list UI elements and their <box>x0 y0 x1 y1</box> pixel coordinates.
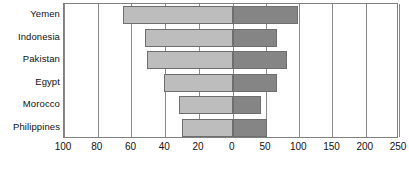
bar-row <box>64 72 397 95</box>
category-label-philippines: Philippines <box>0 116 60 139</box>
tick-left-80: 80 <box>91 141 102 152</box>
tick-right-250: 250 <box>390 141 407 152</box>
category-label-yemen: Yemen <box>0 3 60 26</box>
bar-right-pakistan <box>233 51 288 69</box>
tick-right-150: 150 <box>323 141 340 152</box>
bar-left-pakistan <box>147 51 233 69</box>
tick-left-40: 40 <box>159 141 170 152</box>
category-axis-labels: YemenIndonesiaPakistanEgyptMoroccoPhilip… <box>0 3 60 138</box>
bar-row <box>64 117 397 140</box>
tick-left-60: 60 <box>125 141 136 152</box>
bar-left-egypt <box>164 74 233 92</box>
category-label-morocco: Morocco <box>0 93 60 116</box>
bar-right-indonesia <box>233 29 278 47</box>
tick-left-20: 20 <box>192 141 203 152</box>
bar-right-philippines <box>233 119 268 137</box>
bar-left-philippines <box>182 119 233 137</box>
value-axis-tick-labels: 10080604020050100150200250 <box>0 141 409 159</box>
tick-right-100: 100 <box>290 141 307 152</box>
category-label-egypt: Egypt <box>0 71 60 94</box>
plot-area <box>63 3 398 138</box>
bar-right-morocco <box>233 96 262 114</box>
category-label-indonesia: Indonesia <box>0 26 60 49</box>
bar-row <box>64 4 397 27</box>
bar-row <box>64 27 397 50</box>
tick-right-50: 50 <box>259 141 270 152</box>
gridline-right-250 <box>399 4 400 137</box>
bar-row <box>64 49 397 72</box>
tick-zero: 0 <box>229 141 235 152</box>
category-label-pakistan: Pakistan <box>0 48 60 71</box>
bar-row <box>64 94 397 117</box>
bar-left-indonesia <box>145 29 233 47</box>
bar-right-yemen <box>233 6 298 24</box>
bar-left-morocco <box>179 96 233 114</box>
tick-left-100: 100 <box>55 141 72 152</box>
bar-left-yemen <box>123 6 233 24</box>
bar-right-egypt <box>233 74 278 92</box>
tornado-chart: YemenIndonesiaPakistanEgyptMoroccoPhilip… <box>0 0 409 170</box>
tick-right-200: 200 <box>356 141 373 152</box>
